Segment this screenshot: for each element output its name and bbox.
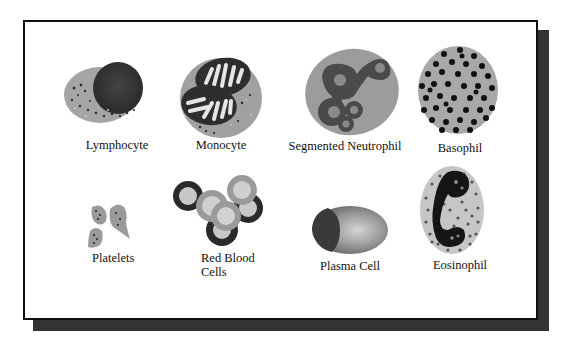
lymphocyte-illustration bbox=[60, 58, 150, 128]
monocyte-label: Monocyte bbox=[196, 138, 247, 152]
platelets-illustration bbox=[86, 203, 134, 251]
platelets-label: Platelets bbox=[92, 251, 134, 265]
plasma-cell-illustration bbox=[310, 204, 390, 256]
red-blood-cells-label-line2: Cells bbox=[201, 265, 227, 279]
segmented-neutrophil-illustration bbox=[302, 46, 402, 138]
red-blood-cells-label-line1: Red Blood bbox=[201, 251, 255, 265]
segmented-neutrophil-label: Segmented Neutrophil bbox=[289, 139, 402, 153]
red-blood-cells-illustration bbox=[170, 174, 270, 254]
basophil-illustration bbox=[416, 44, 500, 136]
lymphocyte-label: Lymphocyte bbox=[86, 138, 149, 152]
eosinophil-illustration bbox=[418, 164, 486, 256]
eosinophil-label: Eosinophil bbox=[433, 258, 487, 272]
basophil-label: Basophil bbox=[438, 141, 482, 155]
monocyte-illustration bbox=[176, 55, 264, 140]
plasma-cell-label: Plasma Cell bbox=[320, 259, 380, 273]
